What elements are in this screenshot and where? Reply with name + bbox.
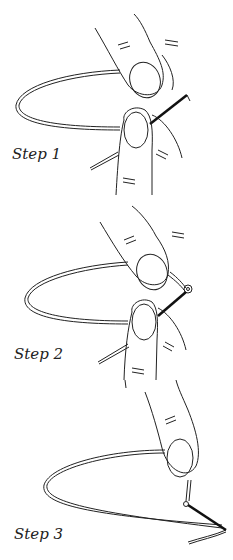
step-3-panel: Step 3	[0, 380, 233, 560]
step-2-panel: Step 2	[0, 200, 233, 380]
step-1-label: Step 1	[12, 145, 61, 163]
step-2-label: Step 2	[14, 345, 63, 363]
step-1-illustration	[0, 0, 233, 200]
step-3-label: Step 3	[14, 525, 63, 543]
step-1-panel: Step 1	[0, 0, 233, 200]
